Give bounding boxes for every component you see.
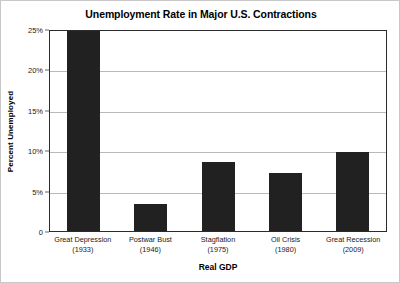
bar[interactable] [202, 162, 235, 231]
bar-slot [50, 31, 117, 231]
chart-page: Unemployment Rate in Major U.S. Contract… [0, 0, 400, 283]
x-axis-tick-labels: Great Depression(1933)Postwar Bust(1946)… [49, 235, 387, 255]
bar[interactable] [67, 31, 100, 231]
x-tick-category-name: Postwar Bust [129, 235, 172, 244]
y-axis-title-text: Percent Unemployed [7, 90, 16, 171]
bar-slot [252, 31, 319, 231]
bar-series [50, 31, 386, 231]
bar[interactable] [134, 204, 167, 231]
x-tick-label: Great Recession(2009) [319, 235, 387, 255]
x-tick-category-year: (1946) [117, 245, 185, 255]
y-axis-tick-labels: 25%20%15%10%5%0 [17, 30, 45, 232]
x-tick-category-name: Great Depression [54, 235, 111, 244]
y-tick-label: 15% [28, 106, 43, 115]
x-tick-label: Postwar Bust(1946) [117, 235, 185, 255]
y-tick-label: 5% [32, 187, 43, 196]
x-tick-category-name: Oil Crisis [271, 235, 300, 244]
plot-area [49, 30, 387, 232]
bar[interactable] [336, 152, 369, 231]
chart-title: Unemployment Rate in Major U.S. Contract… [1, 8, 400, 20]
x-tick-category-year: (2009) [319, 245, 387, 255]
y-tick-label: 10% [28, 147, 43, 156]
x-tick-category-name: Great Recession [326, 235, 380, 244]
y-tick-label: 20% [28, 66, 43, 75]
x-tick-label: Stagflation(1975) [184, 235, 252, 255]
y-axis-title: Percent Unemployed [4, 30, 18, 232]
y-tick-label: 25% [28, 26, 43, 35]
x-tick-label: Oil Crisis(1980) [252, 235, 320, 255]
bar-slot [117, 31, 184, 231]
x-tick-category-name: Stagflation [201, 235, 235, 244]
x-tick-category-year: (1933) [49, 245, 117, 255]
bar-slot [319, 31, 386, 231]
y-tick-label: 0 [39, 228, 43, 237]
x-tick-label: Great Depression(1933) [49, 235, 117, 255]
bar-slot [184, 31, 251, 231]
bar[interactable] [269, 173, 302, 231]
x-axis-title: Real GDP [49, 262, 387, 272]
x-tick-category-year: (1975) [184, 245, 252, 255]
x-tick-category-year: (1980) [252, 245, 320, 255]
